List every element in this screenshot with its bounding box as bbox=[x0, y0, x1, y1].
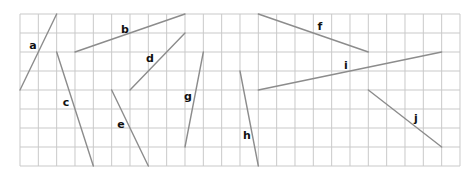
segment-h bbox=[240, 71, 258, 166]
segment-label-a: a bbox=[29, 39, 36, 52]
segment-label-c: c bbox=[63, 96, 70, 109]
segment-label-b: b bbox=[121, 23, 129, 36]
line-segments-grid-diagram: abcdefghij bbox=[0, 0, 472, 174]
segment-label-e: e bbox=[117, 118, 124, 131]
segment-label-f: f bbox=[318, 20, 323, 33]
segment-labels: abcdefghij bbox=[29, 20, 418, 142]
segment-label-i: i bbox=[344, 59, 348, 72]
segment-label-g: g bbox=[184, 90, 192, 103]
segment-label-j: j bbox=[413, 112, 418, 125]
segment-label-d: d bbox=[146, 52, 154, 65]
segment-d bbox=[130, 33, 185, 90]
segment-label-h: h bbox=[243, 129, 251, 142]
